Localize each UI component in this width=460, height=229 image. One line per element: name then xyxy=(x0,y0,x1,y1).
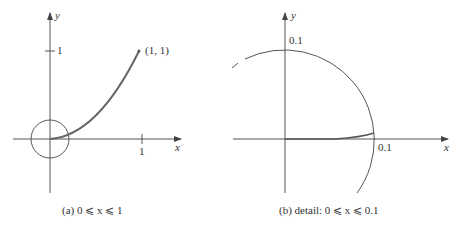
zoom-circle-arc xyxy=(245,50,374,193)
b-x-label: x xyxy=(444,142,449,153)
curve xyxy=(285,133,374,139)
panel-b-plot xyxy=(232,13,448,193)
zoom-circle-arc-left xyxy=(232,63,238,68)
b-y-tick-label: 0.1 xyxy=(289,35,303,46)
b-y-label: y xyxy=(291,10,296,21)
a-x-label: x xyxy=(175,142,180,153)
a-y-tick-label: 1 xyxy=(57,45,63,56)
b-x-tick-label: 0.1 xyxy=(378,142,392,153)
panel-a-plot xyxy=(13,13,181,193)
a-y-label: y xyxy=(55,10,60,21)
a-caption: (a) 0 ⩽ x ⩽ 1 xyxy=(62,204,122,217)
end-point xyxy=(138,50,141,53)
b-caption: (b) detail: 0 ⩽ x ⩽ 0.1 xyxy=(279,204,379,217)
a-x-tick-label: 1 xyxy=(139,146,145,157)
figure-graphics xyxy=(0,0,460,229)
figure: y 1 (1, 1) 1 x (a) 0 ⩽ x ⩽ 1 y 0.1 0.1 x… xyxy=(0,0,460,229)
a-point-label: (1, 1) xyxy=(145,45,169,56)
